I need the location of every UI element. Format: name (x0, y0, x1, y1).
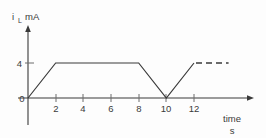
current-vs-time-graph: i L mA 4 0 2 4 6 8 10 12 time s (0, 0, 266, 138)
x-tick-label-6: 6 (108, 103, 113, 114)
x-tick-label-10: 10 (161, 103, 172, 114)
x-tick-label-12: 12 (189, 103, 200, 114)
y-axis-unit-label: mA (25, 11, 40, 22)
x-tick-label-4: 4 (80, 103, 85, 114)
y-axis-arrowhead (25, 25, 31, 32)
y-tick-label-4: 4 (17, 58, 22, 69)
x-axis-unit-label: s (230, 125, 235, 136)
x-axis-arrowhead (247, 95, 254, 101)
chart-svg: i L mA 4 0 2 4 6 8 10 12 time s (0, 0, 266, 138)
x-tick-label-2: 2 (53, 103, 58, 114)
y-axis-label-group: i L mA (12, 11, 40, 24)
x-axis-title-label: time (223, 113, 241, 124)
y-axis-symbol-label: i (12, 11, 14, 22)
waveform-trace (28, 63, 194, 98)
x-tick-label-8: 8 (136, 103, 141, 114)
y-axis-subscript-label: L (18, 17, 22, 24)
origin-label: 0 (19, 93, 24, 104)
